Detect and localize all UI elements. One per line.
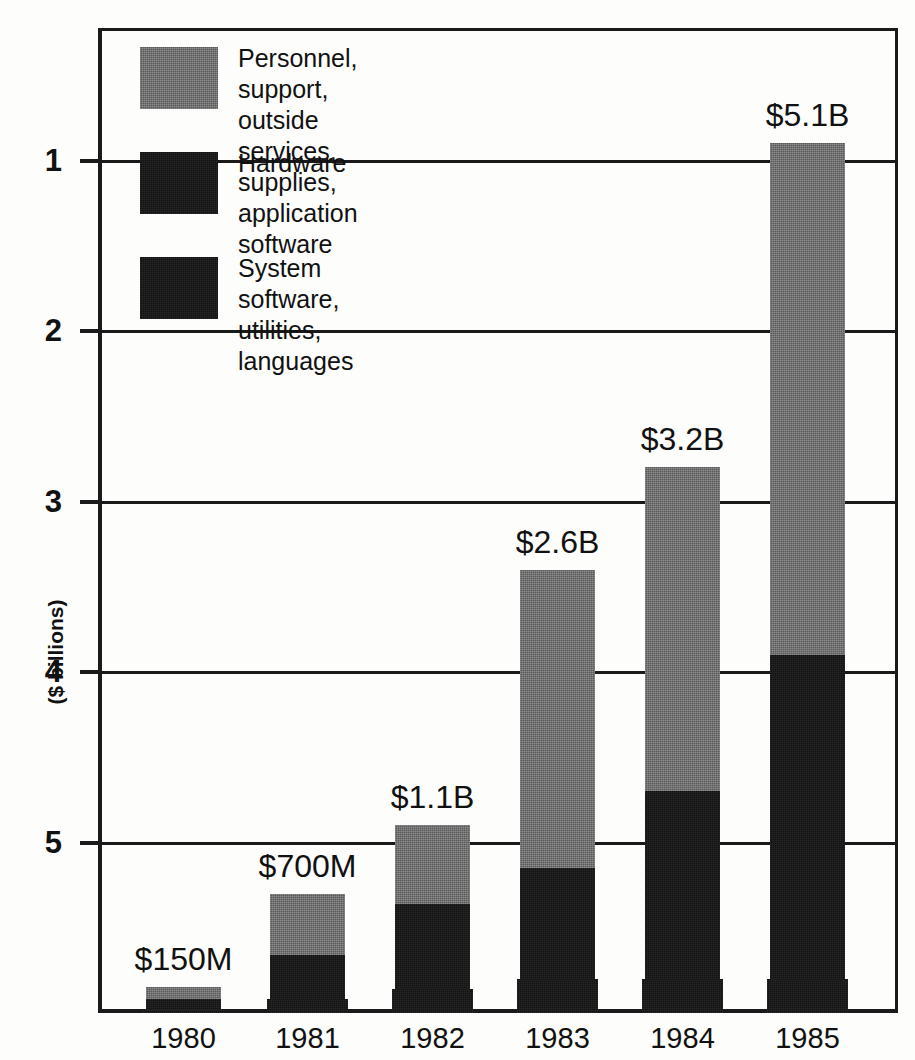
x-axis-label-1985: 1985 [775, 1022, 840, 1055]
bar-value-label-1984: $3.2B [641, 421, 725, 458]
x-axis-label-1981: 1981 [275, 1022, 340, 1055]
plot-area [98, 28, 898, 1013]
x-axis-label-1983: 1983 [525, 1022, 590, 1055]
y-tick-2 [80, 670, 102, 674]
bar-value-label-1982: $1.1B [391, 779, 475, 816]
y-axis-label: 1 [22, 143, 62, 179]
y-tick-1 [80, 841, 102, 845]
y-axis-label: 5 [22, 825, 62, 861]
bar-value-label-1983: $2.6B [516, 524, 600, 561]
legend-label-2: System software, utilities, languages [238, 253, 353, 377]
bar-chart: expenditures 54321 ($ billions) $150M$70… [0, 0, 915, 1060]
x-axis-label-1980: 1980 [151, 1022, 216, 1055]
gridline-1 [98, 842, 898, 845]
y-axis-label: 3 [22, 484, 62, 520]
bar-value-label-1980: $150M [135, 941, 233, 978]
bar-value-label-1985: $5.1B [766, 97, 850, 134]
y-tick-3 [80, 500, 102, 504]
legend-label-1: Hardware [238, 148, 346, 179]
y-axis-label: 2 [22, 313, 62, 349]
gray-swatch [140, 47, 218, 109]
black-swatch [140, 152, 218, 214]
y-axis-title: ($ billions) [44, 552, 68, 752]
y-tick-4 [80, 329, 102, 333]
black-swatch [140, 257, 218, 319]
y-tick-5 [80, 159, 102, 163]
gridline-4 [98, 330, 898, 333]
x-axis-label-1982: 1982 [400, 1022, 465, 1055]
x-axis-label-1984: 1984 [650, 1022, 715, 1055]
gridline-5 [98, 160, 898, 163]
gridline-2 [98, 671, 898, 674]
bar-value-label-1981: $700M [259, 848, 357, 885]
gridline-3 [98, 501, 898, 504]
